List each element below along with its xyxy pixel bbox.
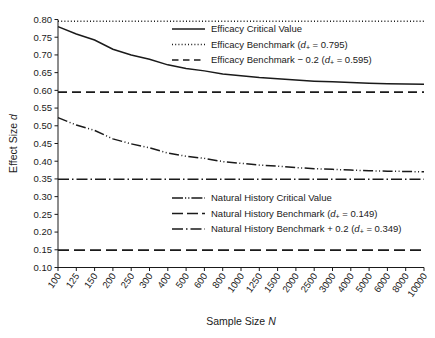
legend-label: Natural History Benchmark + 0.2 (d+ = 0.… [211,223,402,235]
y-tick-label: 0.60 [34,85,53,96]
legend-label: Efficacy Critical Value [211,23,302,34]
y-tick-label: 0.45 [34,138,53,149]
x-tick-label: 200 [100,271,118,290]
y-tick-label: 0.50 [34,120,53,131]
chart-figure: 0.100.150.200.250.300.350.400.450.500.55… [0,0,435,338]
y-tick-label: 0.25 [34,209,53,220]
effect-size-vs-sample-size-chart: 0.100.150.200.250.300.350.400.450.500.55… [0,0,435,338]
x-tick-label: 100 [45,271,63,290]
x-tick-label: 250 [118,271,136,290]
x-tick-label: 125 [63,271,81,290]
y-tick-label: 0.65 [34,67,53,78]
y-axis-title: Effect Size d [7,113,19,173]
y-tick-label: 0.75 [34,32,53,43]
legend-label: Efficacy Benchmark (d+ = 0.795) [211,39,348,51]
x-tick-label: 3000 [317,271,338,295]
y-tick-label: 0.30 [34,191,53,202]
x-tick-label: 1000 [225,271,246,295]
y-tick-label: 0.70 [34,49,53,60]
legend-label: Efficacy Benchmark − 0.2 (d+ = 0.595) [211,54,372,66]
y-tick-label: 0.10 [34,262,53,273]
x-tick-label: 500 [173,271,191,290]
x-tick-label: 400 [155,271,173,290]
x-tick-label: 1250 [243,271,264,295]
y-tick-label: 0.55 [34,102,53,113]
legend-label: Natural History Critical Value [211,192,332,203]
y-tick-label: 0.40 [34,156,53,167]
x-tick-label: 4000 [335,271,356,295]
y-tick-label: 0.35 [34,173,53,184]
y-axis-ticks: 0.100.150.200.250.300.350.400.450.500.55… [34,14,59,273]
x-tick-label: 6000 [371,271,392,295]
x-tick-label: 2000 [280,271,301,295]
x-axis-title: Sample Size N [206,315,276,327]
x-tick-label: 300 [137,271,155,290]
y-tick-label: 0.20 [34,226,53,237]
x-tick-label: 5000 [353,271,374,295]
x-axis-ticks: 1001251502002503004005006008001000125015… [45,268,429,299]
y-tick-label: 0.80 [34,14,53,25]
x-tick-label: 150 [82,271,100,290]
x-tick-label: 600 [191,271,209,290]
x-tick-label: 1500 [262,271,283,295]
x-tick-label: 2500 [298,271,319,295]
x-tick-label: 10000 [405,271,429,299]
y-tick-label: 0.15 [34,244,53,255]
legend-label: Natural History Benchmark (d+ = 0.149) [211,208,377,220]
